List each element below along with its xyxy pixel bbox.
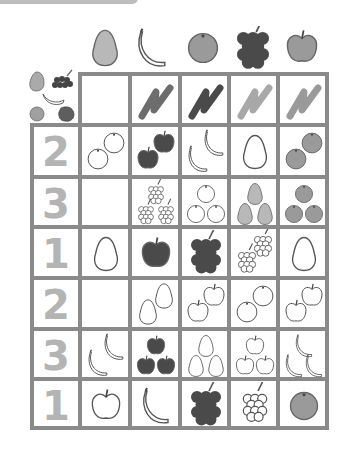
cell-pear-x2[interactable] bbox=[132, 280, 180, 330]
scribble-apple bbox=[280, 76, 328, 126]
cell-orange-x2[interactable] bbox=[82, 127, 130, 177]
cell-apple-x2[interactable] bbox=[280, 280, 328, 330]
cell-grapes-x3[interactable] bbox=[132, 179, 180, 229]
row-number: 3 bbox=[32, 179, 80, 229]
header-pear-icon bbox=[85, 26, 125, 70]
cell-apple-x2[interactable] bbox=[182, 280, 230, 330]
fruit-counting-grid: 231231 bbox=[32, 74, 327, 428]
cell-grapes-x2[interactable] bbox=[231, 229, 279, 279]
cell-grapes-x1[interactable] bbox=[182, 381, 230, 431]
cell-pear-x3[interactable] bbox=[231, 179, 279, 229]
header-grapes-icon bbox=[233, 26, 273, 70]
cell-pear-x1[interactable] bbox=[280, 229, 328, 279]
cell-orange-x2[interactable] bbox=[231, 280, 279, 330]
row-number: 2 bbox=[32, 280, 80, 330]
cell-apple-x3[interactable] bbox=[231, 331, 279, 381]
header-orange-icon bbox=[183, 26, 223, 70]
cell-pear-x3[interactable] bbox=[182, 331, 230, 381]
cell-orange-x2[interactable] bbox=[280, 127, 328, 177]
cell-orange-x3[interactable] bbox=[182, 179, 230, 229]
cell-orange-x3[interactable] bbox=[280, 179, 328, 229]
cell-orange-x1[interactable] bbox=[280, 381, 328, 431]
cell-empty[interactable] bbox=[82, 280, 130, 330]
cell-grapes-x1[interactable] bbox=[231, 381, 279, 431]
cell-pear-x1[interactable] bbox=[82, 229, 130, 279]
top-tab-bar bbox=[0, 0, 138, 4]
header-apple-icon bbox=[282, 26, 322, 70]
cell-apple-x1[interactable] bbox=[82, 381, 130, 431]
cell-banana-x2[interactable] bbox=[182, 127, 230, 177]
scribble-grapes bbox=[231, 76, 279, 126]
scribble-banana bbox=[132, 76, 180, 126]
cell-apple-x1[interactable] bbox=[132, 229, 180, 279]
cell-banana-x2[interactable] bbox=[82, 331, 130, 381]
row-number: 3 bbox=[32, 331, 80, 381]
cell-empty[interactable] bbox=[82, 179, 130, 229]
header-banana-icon bbox=[132, 26, 172, 70]
cell-apple-x2[interactable] bbox=[132, 127, 180, 177]
row-number: 1 bbox=[32, 229, 80, 279]
scribble-orange bbox=[182, 76, 230, 126]
cell-banana-x1[interactable] bbox=[132, 381, 180, 431]
row-number: 2 bbox=[32, 127, 80, 177]
cell-grapes-x1[interactable] bbox=[182, 229, 230, 279]
cell-banana-x3[interactable] bbox=[280, 331, 328, 381]
cell-apple-x3[interactable] bbox=[132, 331, 180, 381]
row-number: 1 bbox=[32, 381, 80, 431]
cell-pear-x1[interactable] bbox=[231, 127, 279, 177]
